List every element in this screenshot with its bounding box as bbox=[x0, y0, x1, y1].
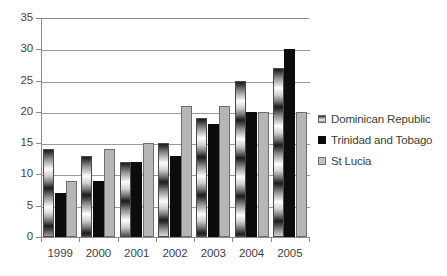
x-tick-mark bbox=[156, 237, 157, 242]
bar-2000-series-1 bbox=[93, 181, 104, 237]
bar-chart: 05101520253035 1999200020012002200320042… bbox=[0, 0, 447, 276]
y-tick-label: 35 bbox=[3, 12, 33, 24]
bar-2003-series-2 bbox=[219, 106, 230, 237]
y-tick-label: 10 bbox=[3, 168, 33, 180]
y-tick-label: 0 bbox=[3, 231, 33, 243]
x-axis-line bbox=[41, 237, 310, 238]
x-tick-mark bbox=[271, 237, 272, 242]
gridline bbox=[42, 113, 310, 114]
chart-legend: Dominican RepublicTrinidad and TobagoSt … bbox=[318, 108, 446, 171]
y-tick-label: 5 bbox=[3, 200, 33, 212]
legend-label: St Lucia bbox=[331, 155, 371, 167]
bar-2005-series-1 bbox=[284, 49, 295, 237]
gridline bbox=[42, 50, 310, 51]
bar-1999-series-1 bbox=[55, 193, 66, 237]
bar-1999-series-2 bbox=[66, 181, 77, 237]
bar-2004-series-2 bbox=[258, 112, 269, 237]
bar-2002-series-0 bbox=[158, 143, 169, 237]
legend-item-1[interactable]: Trinidad and Tobago bbox=[318, 129, 446, 150]
gridline bbox=[42, 82, 310, 83]
bar-2002-series-2 bbox=[181, 106, 192, 237]
y-tick-label: 20 bbox=[3, 106, 33, 118]
bar-2004-series-0 bbox=[235, 81, 246, 237]
x-tick-mark bbox=[232, 237, 233, 242]
legend-item-2[interactable]: St Lucia bbox=[318, 150, 446, 171]
bar-2005-series-2 bbox=[296, 112, 307, 237]
x-tick-mark bbox=[309, 237, 310, 242]
bar-2001-series-1 bbox=[131, 162, 142, 237]
legend-item-0[interactable]: Dominican Republic bbox=[318, 108, 446, 129]
x-tick-label-2005: 2005 bbox=[268, 247, 312, 259]
y-tick-label: 25 bbox=[3, 75, 33, 87]
bar-1999-series-0 bbox=[43, 149, 54, 237]
bar-2000-series-0 bbox=[81, 156, 92, 237]
x-tick-mark bbox=[118, 237, 119, 242]
gridline bbox=[42, 144, 310, 145]
bar-2000-series-2 bbox=[104, 149, 115, 237]
bar-2002-series-1 bbox=[170, 156, 181, 237]
x-tick-mark bbox=[79, 237, 80, 242]
bar-2003-series-1 bbox=[208, 124, 219, 237]
y-tick-label: 15 bbox=[3, 137, 33, 149]
y-tick-label: 30 bbox=[3, 43, 33, 55]
legend-swatch-icon bbox=[318, 157, 326, 165]
bar-2003-series-0 bbox=[196, 118, 207, 237]
bar-2001-series-0 bbox=[120, 162, 131, 237]
x-tick-mark bbox=[41, 237, 42, 242]
x-tick-mark bbox=[194, 237, 195, 242]
legend-swatch-icon bbox=[318, 136, 326, 144]
bar-2005-series-0 bbox=[273, 68, 284, 237]
bar-2004-series-1 bbox=[246, 112, 257, 237]
bar-2001-series-2 bbox=[143, 143, 154, 237]
legend-label: Trinidad and Tobago bbox=[331, 134, 432, 146]
legend-swatch-icon bbox=[318, 115, 326, 123]
legend-label: Dominican Republic bbox=[331, 113, 431, 125]
